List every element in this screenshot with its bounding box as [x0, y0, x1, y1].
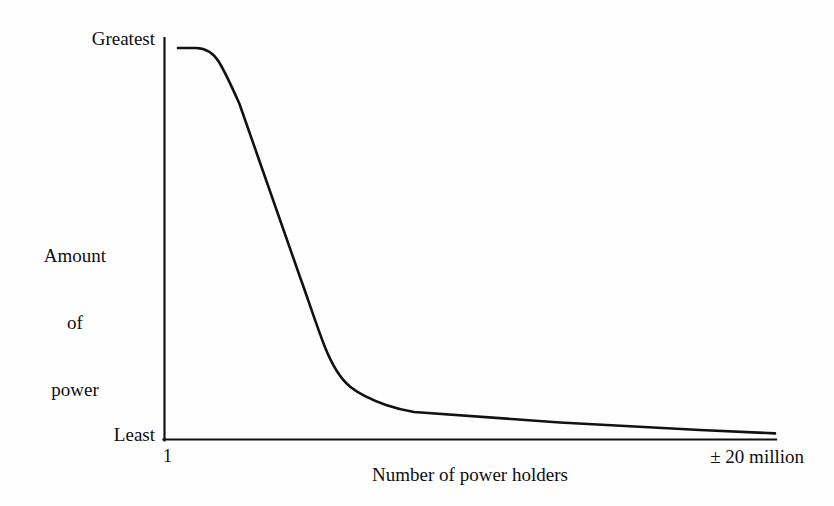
y-axis-max-tick-label: Greatest: [0, 28, 155, 50]
power-distribution-chart: Greatest Least Amount of power 1 ± 20 mi…: [0, 0, 834, 506]
y-axis-title-line-2: of: [0, 312, 150, 334]
power-distribution-curve: [178, 48, 775, 433]
x-axis-title: Number of power holders: [164, 464, 776, 486]
y-axis-title: Amount of power: [0, 200, 150, 446]
y-axis-title-line-3: power: [0, 379, 150, 401]
y-axis-title-line-1: Amount: [0, 245, 150, 267]
